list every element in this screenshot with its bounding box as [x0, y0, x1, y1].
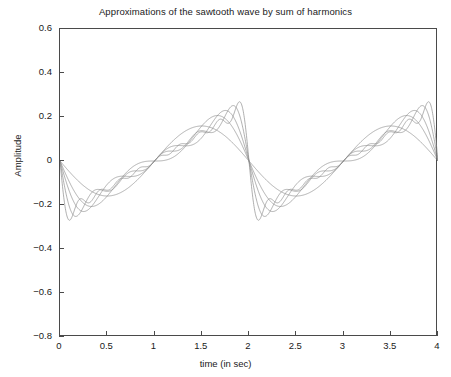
x-tick-mark [343, 331, 344, 336]
y-tick-label: 0.6 [6, 22, 52, 33]
x-tick-mark [201, 331, 202, 336]
x-tick-mark [295, 331, 296, 336]
x-tick-label: 3 [323, 340, 363, 351]
x-tick-label: 1 [134, 340, 174, 351]
x-tick-mark [248, 331, 249, 336]
x-tick-label: 2 [228, 340, 268, 351]
x-tick-label: 3.5 [370, 340, 410, 351]
y-tick-mark [59, 116, 64, 117]
y-tick-mark [59, 204, 64, 205]
plot-area [59, 28, 437, 336]
y-tick-label: 0 [6, 154, 52, 165]
y-tick-label: −0.4 [6, 242, 52, 253]
figure-canvas: Approximations of the sawtooth wave by s… [0, 0, 451, 377]
x-tick-mark [154, 331, 155, 336]
y-tick-label: −0.2 [6, 198, 52, 209]
y-tick-label: 0.2 [6, 110, 52, 121]
x-tick-mark [106, 331, 107, 336]
harmonic-curve [60, 102, 438, 221]
y-tick-mark [59, 248, 64, 249]
x-tick-mark [59, 331, 60, 336]
y-tick-mark [59, 292, 64, 293]
y-tick-mark [59, 28, 64, 29]
y-tick-label: −0.6 [6, 286, 52, 297]
y-tick-mark [59, 72, 64, 73]
x-tick-label: 2.5 [275, 340, 315, 351]
x-tick-label: 0 [39, 340, 79, 351]
y-tick-label: 0.4 [6, 66, 52, 77]
x-tick-label: 1.5 [181, 340, 221, 351]
x-tick-mark [390, 331, 391, 336]
y-tick-mark [59, 160, 64, 161]
x-tick-mark [437, 331, 438, 336]
harmonics-curves [60, 29, 438, 337]
y-tick-mark [59, 336, 64, 337]
x-tick-label: 4 [417, 340, 451, 351]
chart-title: Approximations of the sawtooth wave by s… [0, 6, 451, 17]
x-axis-label: time (in sec) [0, 358, 451, 369]
x-tick-label: 0.5 [86, 340, 126, 351]
